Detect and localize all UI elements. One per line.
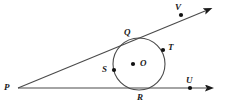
point-label-s: S xyxy=(102,65,107,74)
circle-o xyxy=(113,38,165,90)
point-label-o: O xyxy=(140,59,147,68)
point-label-v: V xyxy=(175,3,181,12)
point-label-u: U xyxy=(186,76,193,85)
point-dot-o xyxy=(131,62,135,66)
point-dot-s xyxy=(112,68,116,72)
point-label-r: R xyxy=(137,93,143,102)
diagram-canvas xyxy=(0,0,228,107)
point-label-p: P xyxy=(4,83,10,92)
point-dot-t xyxy=(161,48,165,52)
point-dot-v xyxy=(179,13,183,17)
point-dot-u xyxy=(188,86,192,90)
geometry-figure: P Q V T S O R U xyxy=(0,0,228,107)
point-label-q: Q xyxy=(124,28,131,37)
ray-pv xyxy=(18,11,205,88)
point-label-t: T xyxy=(168,43,174,52)
